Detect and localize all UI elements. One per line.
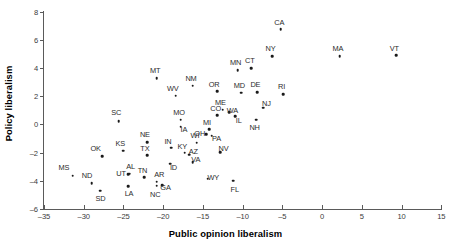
data-point: [71, 175, 74, 178]
data-point-label: ND: [82, 171, 92, 180]
data-point: [232, 180, 235, 183]
x-tick-label: –5: [278, 212, 286, 221]
x-tick-mark: [84, 205, 85, 209]
data-point: [250, 67, 253, 70]
data-point-label: CA: [274, 17, 284, 26]
plot-area: [44, 12, 441, 209]
y-tick-mark: [40, 12, 44, 13]
x-tick-label: –20: [157, 212, 169, 221]
data-point-label: MS: [58, 163, 69, 172]
data-point: [156, 184, 159, 187]
data-point: [117, 120, 120, 123]
data-point-label: VA: [191, 154, 200, 163]
x-tick-mark: [203, 205, 204, 209]
x-tick-mark: [362, 205, 363, 209]
data-point: [179, 118, 182, 121]
data-point-label: WA: [227, 105, 238, 114]
data-point: [240, 91, 243, 94]
data-point-label: NE: [140, 130, 150, 139]
data-point-label: UT: [116, 169, 126, 178]
y-tick-label: 4: [26, 64, 38, 73]
x-tick-mark: [163, 205, 164, 209]
data-point: [255, 118, 258, 121]
data-point-label: ME: [215, 97, 226, 106]
data-point-label: WV: [167, 83, 179, 92]
data-point-label: MN: [230, 58, 241, 67]
data-point-label: NM: [185, 73, 196, 82]
x-tick-label: 5: [360, 212, 364, 221]
data-point-label: OH: [194, 129, 205, 138]
data-point-label: MO: [173, 107, 185, 116]
data-point-label: ID: [170, 163, 177, 172]
data-point-label: IA: [181, 124, 188, 133]
data-point: [170, 146, 173, 149]
x-tick-label: 15: [437, 212, 445, 221]
y-tick-label: 0: [26, 120, 38, 129]
x-tick-mark: [44, 205, 45, 209]
data-point-label: FL: [231, 184, 239, 193]
data-point-label: NV: [219, 144, 229, 153]
data-point: [127, 185, 130, 188]
y-tick-mark: [40, 40, 44, 41]
data-point: [282, 93, 285, 96]
data-point-label: NH: [249, 123, 259, 132]
data-point: [216, 90, 219, 93]
data-point-label: AL: [126, 162, 135, 171]
y-tick-mark: [40, 181, 44, 182]
data-point-label: PA: [212, 133, 221, 142]
x-tick-mark: [322, 205, 323, 209]
x-tick-label: –35: [38, 212, 50, 221]
data-point: [183, 151, 186, 154]
data-point: [175, 94, 178, 97]
x-tick-label: –10: [236, 212, 248, 221]
y-axis-title: Policy liberalism: [3, 44, 14, 164]
data-point: [191, 84, 194, 87]
scatter-plot-figure: –35–30–25–20–15–10–5051015 –6–4–202468 M…: [0, 0, 451, 244]
x-tick-label: –30: [78, 212, 90, 221]
x-tick-mark: [441, 205, 442, 209]
x-tick-label: –15: [197, 212, 209, 221]
x-axis-title: Public opinion liberalism: [0, 228, 451, 239]
y-tick-mark: [40, 209, 44, 210]
data-point: [156, 180, 159, 183]
data-point-label: VT: [390, 43, 399, 52]
data-point: [156, 77, 159, 80]
data-point: [208, 128, 211, 131]
data-point: [146, 154, 149, 157]
x-tick-label: 10: [397, 212, 405, 221]
data-point-label: IN: [164, 136, 171, 145]
data-point-label: NJ: [262, 99, 271, 108]
data-point: [237, 69, 240, 72]
data-point-label: OK: [90, 144, 100, 153]
x-tick-label: –25: [117, 212, 129, 221]
y-tick-label: –4: [26, 176, 38, 185]
x-tick-mark: [123, 205, 124, 209]
data-point: [271, 55, 274, 58]
data-point: [90, 182, 93, 185]
data-point-label: MD: [234, 80, 245, 89]
data-point: [101, 155, 104, 158]
data-point-label: SC: [111, 108, 121, 117]
data-point-label: NY: [265, 44, 275, 53]
data-point-label: GA: [160, 183, 170, 192]
y-tick-label: 6: [26, 35, 38, 44]
data-point: [129, 172, 132, 175]
data-point-label: TX: [140, 144, 149, 153]
data-point-label: TN: [138, 166, 148, 175]
data-point-label: KY: [177, 141, 187, 150]
data-point-label: IL: [236, 115, 242, 124]
x-tick-mark: [402, 205, 403, 209]
y-tick-mark: [40, 153, 44, 154]
data-point: [338, 55, 341, 58]
x-tick-mark: [243, 205, 244, 209]
y-tick-label: –2: [26, 148, 38, 157]
data-point-label: MI: [203, 117, 211, 126]
y-tick-label: 2: [26, 92, 38, 101]
y-tick-label: –6: [26, 205, 38, 214]
data-point: [205, 133, 208, 136]
data-point: [99, 189, 102, 192]
data-point-label: KS: [116, 138, 126, 147]
data-point-label: OR: [209, 79, 220, 88]
y-tick-label: 8: [26, 7, 38, 16]
data-point-label: AR: [154, 170, 164, 179]
